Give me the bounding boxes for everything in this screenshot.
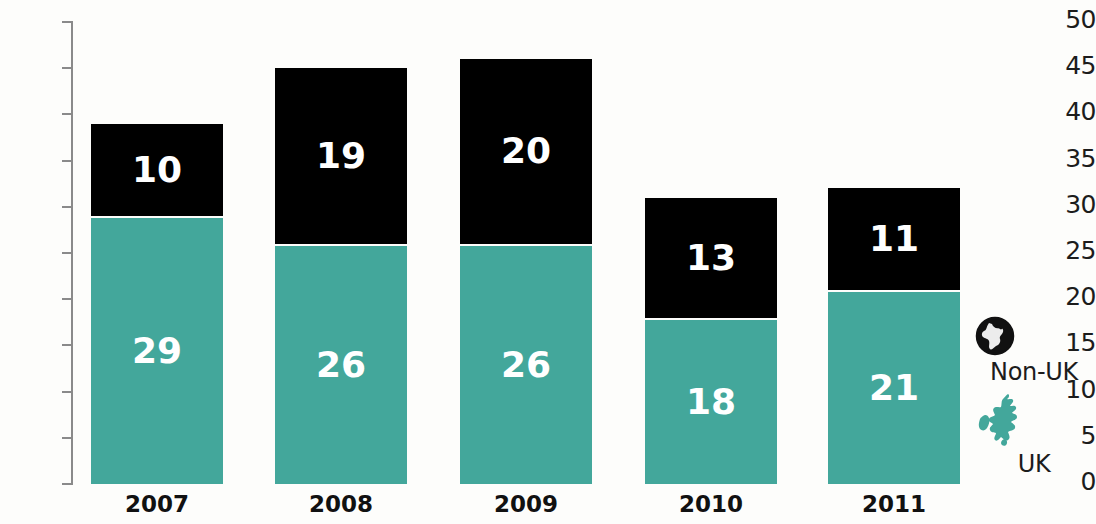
bar-value-label-non-uk-2009: 20 — [460, 133, 592, 169]
bar-value-label-non-uk-2011: 11 — [828, 221, 960, 257]
x-tick-label-2010: 2010 — [645, 491, 777, 517]
legend-item-uk[interactable]: UK — [975, 392, 1093, 478]
legend-label-uk: UK — [975, 450, 1093, 478]
y-tick-mark — [62, 391, 73, 393]
bar-group-2009[interactable]: 2620 — [460, 59, 592, 484]
x-tick-label-2008: 2008 — [275, 491, 407, 517]
bar-segment-non-uk-2008[interactable]: 19 — [275, 68, 407, 244]
y-tick-label: 40 — [1044, 97, 1096, 126]
bar-segment-uk-2009[interactable]: 26 — [460, 244, 592, 484]
y-tick-mark — [62, 67, 73, 69]
bar-segment-uk-2007[interactable]: 29 — [91, 216, 223, 484]
bar-group-2008[interactable]: 2619 — [275, 68, 407, 484]
bar-value-label-non-uk-2008: 19 — [275, 138, 407, 174]
y-tick-mark — [62, 206, 73, 208]
x-tick-label-2011: 2011 — [828, 491, 960, 517]
bar-value-label-non-uk-2007: 10 — [91, 152, 223, 188]
y-tick-mark — [62, 21, 73, 23]
bar-value-label-non-uk-2010: 13 — [645, 240, 777, 276]
bar-value-label-uk-2009: 26 — [460, 347, 592, 383]
bar-segment-uk-2008[interactable]: 26 — [275, 244, 407, 484]
bar-segment-non-uk-2007[interactable]: 10 — [91, 124, 223, 216]
y-tick-label: 30 — [1044, 190, 1096, 219]
y-tick-mark — [62, 298, 73, 300]
stacked-bar-chart: 05101520253035404550 2910261926201813211… — [0, 0, 1096, 524]
bar-value-label-uk-2011: 21 — [828, 370, 960, 406]
y-tick-label: 20 — [1044, 282, 1096, 311]
bar-group-2011[interactable]: 2111 — [828, 188, 960, 484]
bar-segment-non-uk-2010[interactable]: 13 — [645, 198, 777, 318]
legend-label-non-uk: Non-UK — [975, 358, 1093, 386]
bar-value-label-uk-2010: 18 — [645, 384, 777, 420]
y-tick-label: 35 — [1044, 144, 1096, 173]
y-tick-mark — [62, 437, 73, 439]
bar-segment-non-uk-2009[interactable]: 20 — [460, 59, 592, 244]
x-tick-label-2007: 2007 — [91, 491, 223, 517]
y-tick-mark — [62, 483, 73, 485]
bar-value-label-uk-2008: 26 — [275, 347, 407, 383]
bar-segment-uk-2010[interactable]: 18 — [645, 318, 777, 484]
bar-group-2010[interactable]: 1813 — [645, 198, 777, 484]
y-tick-label: 25 — [1044, 236, 1096, 265]
y-tick-label: 45 — [1044, 51, 1096, 80]
bar-group-2007[interactable]: 2910 — [91, 124, 223, 484]
x-tick-label-2009: 2009 — [460, 491, 592, 517]
globe-icon — [975, 316, 1093, 356]
bar-segment-uk-2011[interactable]: 21 — [828, 290, 960, 484]
bar-value-label-uk-2007: 29 — [91, 333, 223, 369]
y-tick-mark — [62, 252, 73, 254]
legend-item-non-uk[interactable]: Non-UK — [975, 316, 1093, 386]
y-tick-label: 50 — [1044, 5, 1096, 34]
chart-legend: Non-UK UK — [975, 316, 1093, 484]
y-tick-mark — [62, 160, 73, 162]
y-tick-mark — [62, 113, 73, 115]
y-tick-mark — [62, 344, 73, 346]
bar-segment-non-uk-2011[interactable]: 11 — [828, 188, 960, 290]
uk-map-icon — [975, 392, 1093, 448]
